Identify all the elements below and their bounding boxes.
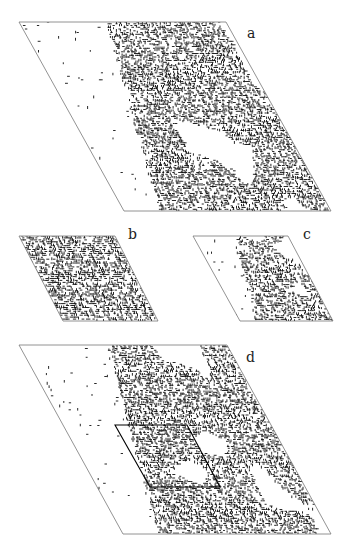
cluster-path [20, 236, 155, 322]
panel-b: b [19, 226, 158, 322]
panel-c: c [193, 226, 334, 322]
cluster-a [23, 22, 328, 212]
panel-d: d [19, 345, 331, 535]
cluster-d [46, 345, 318, 535]
panel-label-a: a [247, 25, 255, 41]
cluster-path [208, 236, 334, 322]
figure: a b c d [0, 0, 348, 550]
cluster-c [208, 236, 334, 322]
panel-label-b: b [128, 226, 137, 242]
panel-label-c: c [303, 226, 311, 242]
cluster-b [20, 236, 155, 322]
cluster-path [23, 22, 328, 212]
panel-a: a [19, 22, 331, 212]
panel-label-d: d [246, 349, 255, 365]
cluster-path [46, 345, 318, 535]
